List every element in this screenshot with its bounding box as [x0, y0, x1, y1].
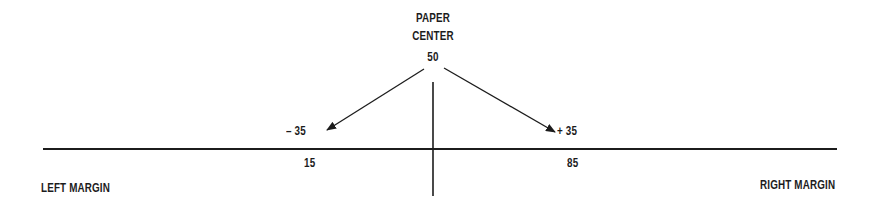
right-offset-label: + 35 [557, 125, 577, 137]
right-margin-label: RIGHT MARGIN [760, 179, 835, 191]
title-paper: PAPER [398, 12, 469, 24]
title-center: CENTER [398, 30, 469, 42]
right-position-value: 85 [567, 157, 578, 169]
left-position-value: 15 [304, 157, 315, 169]
left-arrow [327, 69, 424, 130]
center-value: 50 [398, 51, 469, 63]
paper-center-diagram: PAPER CENTER 50 – 35 + 35 15 85 LEFT MAR… [0, 0, 869, 213]
right-arrow [444, 68, 555, 132]
left-offset-label: – 35 [286, 125, 306, 137]
left-margin-label: LEFT MARGIN [41, 182, 110, 194]
